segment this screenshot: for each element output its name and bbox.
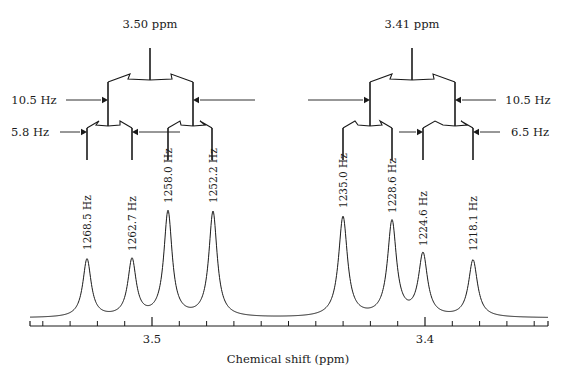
left-tree-ppm-label: 3.50 ppm — [123, 17, 178, 31]
peak-label-4: 1252.2 Hz — [207, 148, 219, 203]
right-tree-branch-1-left — [370, 74, 412, 82]
right-tree-ppm-label: 3.41 ppm — [385, 17, 440, 31]
peak-label-6: 1228.6 Hz — [386, 158, 398, 213]
left-tree-branch-2-0 — [87, 121, 108, 128]
right-j-small-label: 6.5 Hz — [511, 125, 549, 139]
x-axis-title: Chemical shift (ppm) — [227, 352, 349, 366]
right-j-small-arrowhead — [473, 129, 479, 135]
left-tree-branch-1-right — [150, 74, 193, 82]
left-j-small-arrowhead — [81, 129, 87, 135]
peak-label-1: 1268.5 Hz — [81, 195, 93, 250]
right-tree-branch-2-1 — [370, 121, 392, 128]
peak-label-3: 1258.0 Hz — [162, 148, 174, 203]
peak-label-2: 1262.7 Hz — [126, 196, 138, 251]
right-j-large-arrowhead — [455, 97, 461, 103]
x-axis-tick-label-1: 3.5 — [143, 332, 161, 346]
x-axis-tick-label-2: 3.4 — [416, 332, 434, 346]
peak-label-7: 1224.6 Hz — [417, 191, 429, 246]
right-j-large-arrowhead-2 — [364, 97, 370, 103]
left-tree-branch-2-3 — [193, 121, 212, 128]
nmr-figure: 3.50 ppm3.41 ppm10.5 Hz5.8 Hz10.5 Hz6.5 … — [0, 0, 577, 380]
left-tree-branch-1-left — [108, 74, 150, 82]
right-j-large-label: 10.5 Hz — [505, 93, 550, 107]
peak-label-8: 1218.1 Hz — [467, 196, 479, 251]
left-j-large-arrowhead-2 — [193, 97, 199, 103]
right-tree-branch-2-2 — [423, 121, 455, 128]
left-tree-branch-2-1 — [108, 121, 132, 128]
right-tree-branch-2-0 — [343, 121, 370, 128]
left-tree-branch-2-2 — [168, 121, 193, 128]
right-j-small-arrowhead-2 — [417, 129, 423, 135]
right-tree-branch-2-3 — [455, 121, 473, 128]
left-j-small-arrowhead-2 — [132, 129, 138, 135]
right-tree-branch-1-right — [412, 74, 455, 82]
left-j-large-arrowhead — [102, 97, 108, 103]
left-j-large-label: 10.5 Hz — [11, 93, 56, 107]
peak-label-5: 1235.0 Hz — [337, 153, 349, 208]
left-j-small-label: 5.8 Hz — [11, 125, 49, 139]
figure-canvas: 3.50 ppm3.41 ppm10.5 Hz5.8 Hz10.5 Hz6.5 … — [0, 0, 577, 380]
